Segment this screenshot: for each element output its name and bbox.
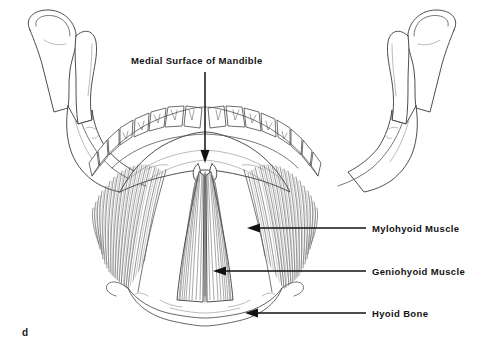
- tooth: [226, 106, 245, 127]
- tooth: [165, 106, 184, 127]
- anatomy-figure: Medial Surface of Mandible Mylohyoid Mus…: [0, 0, 484, 351]
- hyoid-bone-label: Hyoid Bone: [372, 308, 428, 319]
- panel-letter: d: [22, 327, 28, 338]
- mandible-diagram-canvas: Medial Surface of Mandible Mylohyoid Mus…: [0, 0, 484, 351]
- geniohyoid-label: Geniohyoid Muscle: [372, 266, 465, 277]
- mylohyoid-label: Mylohyoid Muscle: [372, 223, 459, 234]
- title-label: Medial Surface of Mandible: [131, 55, 263, 66]
